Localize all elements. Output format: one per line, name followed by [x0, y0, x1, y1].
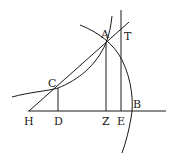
label-B: B	[133, 98, 141, 111]
label-A: A	[100, 28, 110, 41]
label-C: C	[48, 77, 56, 90]
label-H: H	[24, 115, 34, 128]
geometry-diagram: A T C H D Z E B	[0, 0, 169, 160]
curve-CA	[12, 16, 112, 97]
label-T: T	[124, 30, 132, 43]
label-E: E	[117, 115, 125, 128]
label-Z: Z	[102, 115, 110, 128]
line-HT	[29, 22, 129, 111]
label-D: D	[54, 115, 63, 128]
